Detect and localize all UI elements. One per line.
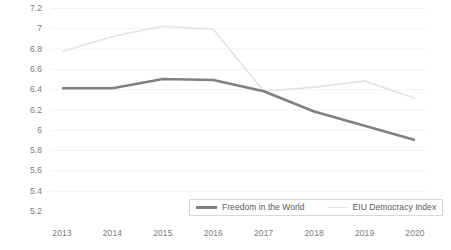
- legend-entry-freedom-in-the-world[interactable]: Freedom in the World: [196, 203, 305, 212]
- legend-swatch-icon: [327, 207, 348, 209]
- x-axis-tick-label: 2018: [304, 229, 323, 238]
- x-axis-tick-label: 2020: [405, 229, 424, 238]
- x-axis-tick-label: 2013: [52, 229, 71, 238]
- legend-label: Freedom in the World: [222, 203, 305, 212]
- chart-legend: Freedom in the World EIU Democracy Index: [189, 199, 443, 216]
- line-chart: 7.276.86.66.46.265.85.65.45.2 2013201420…: [0, 0, 451, 250]
- x-axis-tick-label: 2016: [204, 229, 223, 238]
- legend-swatch-icon: [196, 206, 217, 209]
- x-axis-tick-label: 2015: [153, 229, 172, 238]
- x-axis-tick-label: 2014: [103, 229, 122, 238]
- legend-label: EIU Democracy Index: [353, 203, 437, 212]
- x-axis-tick-label: 2017: [254, 229, 273, 238]
- x-axis-tick-label: 2019: [355, 229, 374, 238]
- legend-entry-eiu-democracy-index[interactable]: EIU Democracy Index: [327, 203, 437, 212]
